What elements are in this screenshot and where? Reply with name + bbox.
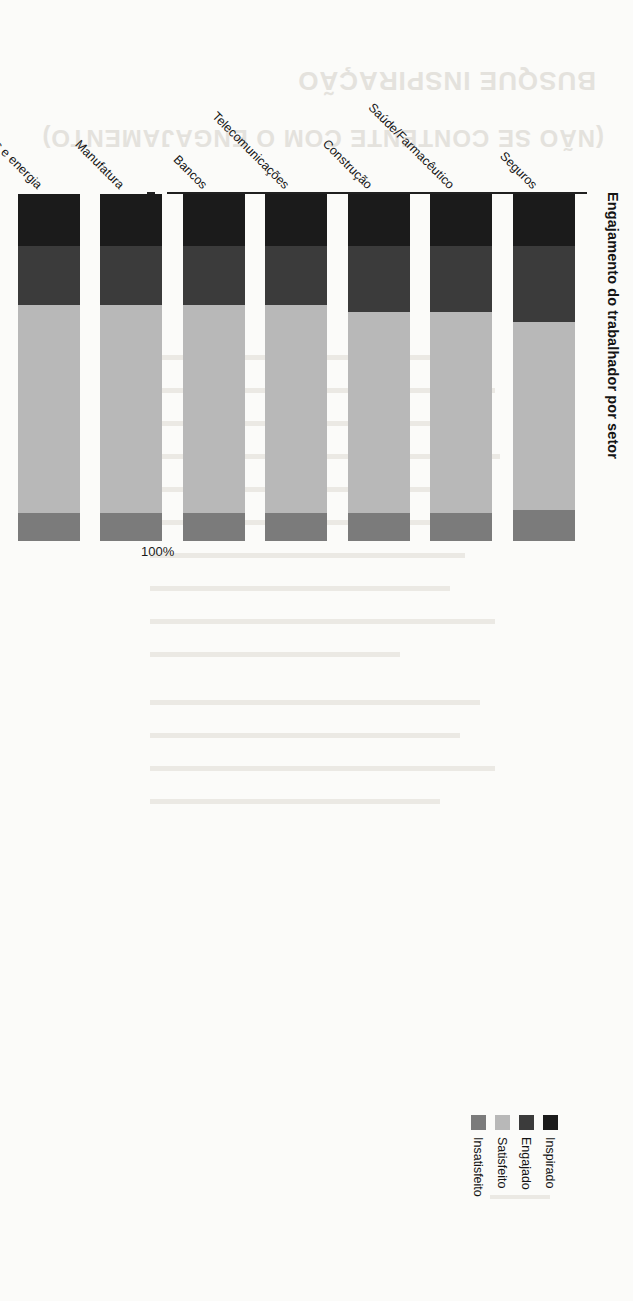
bar-segment-satisfeito bbox=[266, 305, 328, 513]
bar-segment-satisfeito bbox=[18, 305, 80, 513]
bar-1 bbox=[513, 194, 575, 541]
value-axis-label: 100% bbox=[141, 544, 174, 559]
category-label-5: Bancos bbox=[171, 153, 210, 192]
category-label-7: Recursos naturais e energia bbox=[0, 71, 45, 191]
bar-segment-insatisfeito bbox=[348, 513, 410, 541]
bar-segment-satisfeito bbox=[101, 305, 163, 513]
plot-area: 100%806040200 SegurosSaúde/FarmacêuticoC… bbox=[173, 192, 578, 1025]
bar-3 bbox=[348, 194, 410, 541]
legend-item-insatisfeito[interactable]: Insatisfeito bbox=[471, 1115, 486, 1197]
legend-label: Insatisfeito bbox=[472, 1137, 486, 1197]
chart-legend: InspiradoEngajadoSatisfeitoInsatisfeito bbox=[471, 1115, 558, 1197]
category-label-4: Telecomunicações bbox=[210, 109, 293, 192]
legend-swatch-icon bbox=[471, 1115, 486, 1130]
bar-7 bbox=[18, 194, 80, 541]
bar-segment-engajado bbox=[348, 246, 410, 312]
category-label-6: Manufatura bbox=[73, 137, 128, 192]
legend-label: Inspirado bbox=[544, 1137, 558, 1188]
legend-swatch-icon bbox=[495, 1115, 510, 1130]
bar-segment-insatisfeito bbox=[513, 510, 575, 541]
bar-segment-engajado bbox=[101, 246, 163, 305]
bar-6 bbox=[101, 194, 163, 541]
bar-segment-inspirado bbox=[101, 194, 163, 246]
bar-segment-insatisfeito bbox=[266, 513, 328, 541]
bar-segment-satisfeito bbox=[513, 322, 575, 509]
legend-item-engajado[interactable]: Engajado bbox=[519, 1115, 534, 1197]
legend-item-satisfeito[interactable]: Satisfeito bbox=[495, 1115, 510, 1197]
bar-5 bbox=[183, 194, 245, 541]
bar-segment-insatisfeito bbox=[183, 513, 245, 541]
bar-4 bbox=[266, 194, 328, 541]
bar-segment-inspirado bbox=[513, 194, 575, 246]
bar-segment-inspirado bbox=[431, 194, 493, 246]
engagement-chart: Engajamento do trabalhador por setor 100… bbox=[0, 0, 633, 1301]
bar-segment-inspirado bbox=[183, 194, 245, 246]
category-label-2: Saúde/Farmacêutico bbox=[366, 100, 457, 191]
bar-segment-inspirado bbox=[18, 194, 80, 246]
bar-segment-inspirado bbox=[266, 194, 328, 246]
legend-label: Engajado bbox=[520, 1137, 534, 1190]
bar-segment-inspirado bbox=[348, 194, 410, 246]
bar-segment-satisfeito bbox=[348, 312, 410, 513]
legend-swatch-icon bbox=[543, 1115, 558, 1130]
bar-segment-satisfeito bbox=[431, 312, 493, 513]
legend-swatch-icon bbox=[519, 1115, 534, 1130]
bar-segment-insatisfeito bbox=[431, 513, 493, 541]
bar-segment-engajado bbox=[513, 246, 575, 322]
bar-segment-engajado bbox=[18, 246, 80, 305]
bar-segment-engajado bbox=[183, 246, 245, 305]
category-label-1: Seguros bbox=[497, 149, 540, 192]
bar-segment-insatisfeito bbox=[18, 513, 80, 541]
bar-segment-insatisfeito bbox=[101, 513, 163, 541]
chart-title: Engajamento do trabalhador por setor bbox=[605, 192, 621, 459]
legend-label: Satisfeito bbox=[496, 1137, 510, 1188]
bar-2 bbox=[431, 194, 493, 541]
bar-segment-engajado bbox=[266, 246, 328, 305]
bar-segment-satisfeito bbox=[183, 305, 245, 513]
category-label-3: Construção bbox=[320, 137, 375, 192]
legend-item-inspirado[interactable]: Inspirado bbox=[543, 1115, 558, 1197]
bar-segment-engajado bbox=[431, 246, 493, 312]
